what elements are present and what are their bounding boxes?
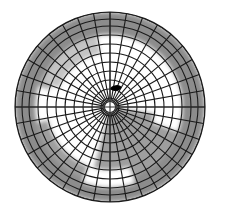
polar-grid-figure: [0, 0, 226, 211]
polar-grid-canvas: [0, 0, 226, 211]
